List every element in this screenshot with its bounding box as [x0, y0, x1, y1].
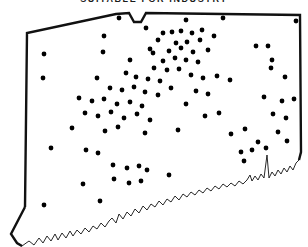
site-marker-dot: [170, 30, 175, 35]
site-marker-dot: [212, 34, 217, 39]
site-marker-dot: [191, 50, 196, 55]
site-marker-dot: [148, 47, 153, 52]
site-marker-dot: [167, 173, 172, 178]
site-marker-dot: [132, 85, 137, 90]
site-marker-dot: [179, 29, 184, 34]
site-marker-dot: [102, 97, 107, 102]
site-marker-dot: [90, 99, 95, 104]
site-marker-dot: [280, 99, 285, 104]
state-outline-group: [11, 13, 301, 246]
site-marker-dot: [102, 34, 107, 39]
site-marker-dot: [176, 128, 181, 133]
site-marker-dot: [111, 163, 116, 168]
site-marker-dot: [283, 75, 288, 80]
site-marker-dot: [169, 86, 174, 91]
site-marker-dot: [165, 68, 170, 73]
coastline-group: [22, 155, 299, 246]
site-marker-dot: [189, 73, 194, 78]
connecticut-map: [0, 0, 308, 247]
site-marker-dot: [83, 111, 88, 116]
site-marker-dot: [294, 19, 299, 24]
site-marker-dot: [49, 146, 54, 151]
site-marker-dot: [173, 56, 178, 61]
site-marker-dot: [70, 126, 75, 131]
site-marker-dot: [96, 114, 101, 119]
site-marker-dot: [203, 114, 208, 119]
site-marker-dot: [167, 49, 172, 54]
map-figure: SUITABLE FOR INDUSTRY: [0, 0, 308, 247]
site-marker-dot: [41, 76, 46, 81]
site-marker-dot: [145, 168, 150, 173]
site-marker-dot: [117, 16, 122, 21]
site-marker-dot: [239, 150, 244, 155]
site-marker-dot: [158, 79, 163, 84]
site-marker-dot: [201, 76, 206, 81]
site-marker-dot: [200, 28, 205, 33]
site-marker-dot: [127, 181, 132, 186]
site-marker-dot: [254, 44, 259, 49]
site-marker-dot: [266, 44, 271, 49]
site-marker-dot: [184, 58, 189, 63]
site-marker-dot: [229, 132, 234, 137]
site-marker-dot: [206, 92, 211, 97]
site-marker-dot: [194, 89, 199, 94]
site-marker-dot: [271, 112, 276, 117]
site-marker-dot: [184, 18, 189, 23]
site-marker-dot: [269, 66, 274, 71]
site-marker-dot: [174, 41, 179, 46]
site-marker-dot: [185, 40, 190, 45]
site-marker-dot: [124, 71, 129, 76]
site-marker-dot: [270, 58, 275, 63]
site-marker-dot: [148, 118, 153, 123]
site-marker-dot: [198, 38, 203, 43]
site-marker-dot: [139, 179, 144, 184]
site-marker-dot: [122, 116, 127, 121]
site-marker-dot: [217, 111, 222, 116]
site-marker-dot: [140, 104, 145, 109]
site-marker-dot: [96, 151, 101, 156]
site-marker-dot: [184, 102, 189, 107]
site-marker-dot: [128, 58, 133, 63]
site-marker-dot: [242, 159, 247, 164]
state-border-outline: [25, 13, 301, 207]
long-island-sound-coastline: [22, 155, 299, 246]
site-marker-dot: [146, 77, 151, 82]
site-marker-dot: [152, 66, 157, 71]
site-marker-dot: [151, 51, 156, 56]
site-marker-dot: [128, 100, 133, 105]
site-marker-dot: [120, 88, 125, 93]
site-marker-dot: [77, 96, 82, 101]
site-marker-dot: [190, 31, 195, 36]
site-marker-dot: [81, 182, 86, 187]
site-marker-dot: [177, 67, 182, 72]
site-marker-dot: [125, 166, 130, 171]
site-marker-dot: [221, 16, 226, 21]
site-marker-dot: [243, 127, 248, 132]
site-marker-dot: [206, 48, 211, 53]
site-marker-dot: [161, 59, 166, 64]
southwest-panhandle-border: [11, 207, 25, 246]
site-marker-dot: [264, 146, 269, 151]
site-marker-dot: [42, 52, 47, 57]
site-marker-dot: [103, 129, 108, 134]
site-marker-layer: [41, 16, 299, 208]
site-marker-dot: [116, 125, 121, 130]
site-marker-dot: [196, 60, 201, 65]
site-marker-dot: [144, 26, 149, 31]
site-marker-dot: [115, 102, 120, 107]
site-marker-dot: [256, 140, 261, 145]
site-marker-dot: [112, 177, 117, 182]
site-marker-dot: [95, 76, 100, 81]
site-marker-dot: [98, 199, 103, 204]
site-marker-dot: [179, 46, 184, 51]
site-marker-dot: [135, 112, 140, 117]
site-marker-dot: [108, 86, 113, 91]
site-marker-dot: [262, 95, 267, 100]
site-marker-dot: [156, 38, 161, 43]
site-marker-dot: [101, 50, 106, 55]
site-marker-dot: [156, 93, 161, 98]
site-marker-dot: [84, 148, 89, 153]
site-marker-dot: [42, 203, 47, 208]
site-marker-dot: [143, 90, 148, 95]
site-marker-dot: [134, 75, 139, 80]
